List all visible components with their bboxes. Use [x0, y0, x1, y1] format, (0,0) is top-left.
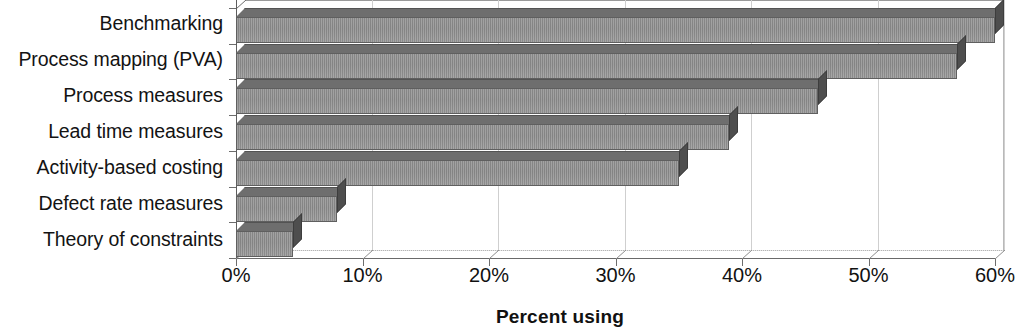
bar-top-face	[236, 8, 1004, 17]
bar-front-face	[236, 124, 729, 150]
y-tick-0	[229, 8, 236, 9]
bar-series	[236, 8, 995, 258]
category-label-process-measures: Process measures	[63, 86, 228, 106]
bar-benchmarking	[236, 17, 995, 43]
x-axis-tick-labels: 0%10%20%30%40%50%60%	[236, 264, 1006, 294]
gridline-60	[1004, 0, 1005, 250]
x-tick-label-60: 60%	[975, 264, 1015, 287]
bar-row	[236, 115, 995, 151]
bar-top-face	[236, 151, 688, 160]
bar-theory-of-constraints	[236, 231, 293, 257]
y-tick-4	[229, 151, 236, 152]
bar-front-face	[236, 231, 293, 257]
bar-row	[236, 8, 995, 44]
y-tick-7	[229, 258, 236, 259]
category-label-defect-rate-measures: Defect rate measures	[39, 194, 228, 214]
bar-front-face	[236, 160, 679, 186]
category-label-theory-of-constraints: Theory of constraints	[43, 230, 228, 250]
bar-activity-based-costing	[236, 160, 679, 186]
x-tick-label-10: 10%	[342, 264, 382, 287]
bar-top-face	[236, 79, 827, 88]
x-axis-title: Percent using	[0, 306, 1016, 328]
x-tick-label-0: 0%	[222, 264, 251, 287]
x-tick-label-40: 40%	[722, 264, 762, 287]
bar-top-face	[236, 187, 346, 196]
y-tick-3	[229, 115, 236, 116]
bar-defect-rate-measures	[236, 196, 337, 222]
y-tick-5	[229, 187, 236, 188]
bar-chart: Benchmarking Process mapping (PVA) Proce…	[0, 0, 1016, 335]
bar-top-face	[236, 44, 966, 53]
x-tick-label-50: 50%	[848, 264, 888, 287]
bar-lead-time-measures	[236, 124, 729, 150]
x-tick-label-20: 20%	[469, 264, 509, 287]
x-tick-depth-60	[995, 250, 1005, 259]
bar-front-face	[236, 17, 995, 43]
bar-front-face	[236, 88, 818, 114]
bar-front-face	[236, 196, 337, 222]
category-axis-labels: Benchmarking Process mapping (PVA) Proce…	[0, 6, 228, 258]
category-label-activity-based-costing: Activity-based costing	[37, 158, 228, 178]
bar-row	[236, 187, 995, 223]
bar-end-cap	[729, 106, 738, 141]
bar-row	[236, 79, 995, 115]
bar-row	[236, 151, 995, 187]
bar-front-face	[236, 53, 957, 79]
plot-area	[236, 8, 995, 258]
y-tick-2	[229, 79, 236, 80]
x-tick-label-30: 30%	[595, 264, 635, 287]
category-label-benchmarking: Benchmarking	[100, 14, 228, 34]
y-tick-1	[229, 44, 236, 45]
y-tick-6	[229, 222, 236, 223]
bar-row	[236, 44, 995, 80]
bar-row	[236, 222, 995, 258]
bar-process-mapping-pva	[236, 53, 957, 79]
x-axis-title-text: Percent using	[496, 306, 624, 327]
bar-top-face	[236, 115, 738, 124]
bar-process-measures	[236, 88, 818, 114]
category-label-process-mapping: Process mapping (PVA)	[18, 50, 228, 70]
category-label-lead-time-measures: Lead time measures	[48, 122, 228, 142]
